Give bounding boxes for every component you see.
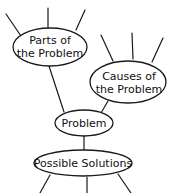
web-diagram: Parts of the Problem Causes of the Probl… [0, 0, 195, 193]
solutions-spoke-left [40, 175, 50, 193]
parts-to-problem-connector [49, 66, 64, 112]
causes-spoke-middle [132, 33, 133, 59]
causes-label-line2: the Problem [96, 83, 163, 96]
parts-spoke-right [76, 10, 85, 30]
parts-label-line2: the Problem [17, 47, 84, 60]
parts-label-line1: Parts of [29, 34, 72, 47]
causes-spoke-left [101, 35, 113, 61]
problem-label: Problem [62, 117, 107, 130]
parts-spoke-left [6, 14, 21, 36]
node-parts-of-the-problem: Parts of the Problem [13, 28, 87, 66]
node-problem: Problem [55, 110, 113, 136]
causes-spoke-right [152, 38, 163, 62]
causes-to-problem-connector [101, 101, 108, 113]
solutions-label: Possible Solutions [34, 157, 133, 170]
node-causes-of-the-problem: Causes of the Problem [90, 61, 166, 103]
causes-label-line1: Causes of [102, 70, 157, 83]
node-possible-solutions: Possible Solutions [34, 150, 133, 176]
solutions-spoke-right [118, 174, 131, 193]
